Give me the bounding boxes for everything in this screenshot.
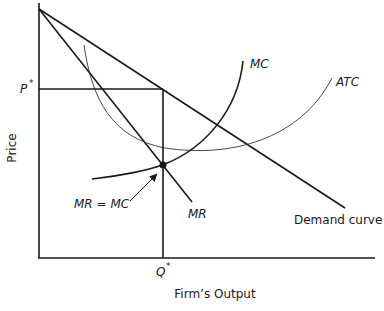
price-marker: P bbox=[20, 82, 28, 96]
mr-label: MR bbox=[188, 207, 207, 221]
demand-label: Demand curve bbox=[294, 213, 382, 227]
demand-curve bbox=[39, 9, 345, 208]
mc-curve bbox=[92, 61, 243, 179]
y-axis-label: Price bbox=[5, 133, 19, 162]
atc-label: ATC bbox=[335, 75, 360, 89]
equilibrium-point bbox=[160, 162, 167, 169]
mr-curve bbox=[39, 9, 192, 202]
price-star: * bbox=[29, 78, 34, 88]
mc-label: MC bbox=[250, 57, 269, 71]
annotation-arrow bbox=[130, 175, 156, 201]
mr-equals-mc-label: MR = MC bbox=[74, 197, 130, 211]
quantity-marker: Q bbox=[156, 265, 165, 279]
monopoly-diagram: Price Firm’s Output P * Q * MC ATC MR De… bbox=[0, 0, 384, 311]
quantity-star: * bbox=[166, 261, 171, 271]
x-axis-label: Firm’s Output bbox=[174, 287, 256, 301]
